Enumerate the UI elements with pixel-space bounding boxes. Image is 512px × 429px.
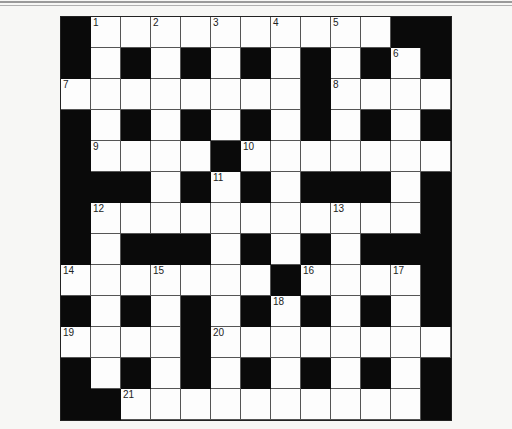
answer-square[interactable] <box>181 141 211 172</box>
answer-square[interactable] <box>91 296 121 327</box>
answer-square[interactable]: 19 <box>61 327 91 358</box>
answer-square[interactable] <box>391 327 421 358</box>
answer-square[interactable] <box>151 296 181 327</box>
answer-square[interactable] <box>181 79 211 110</box>
answer-square[interactable] <box>91 79 121 110</box>
answer-square[interactable] <box>271 172 301 203</box>
answer-square[interactable] <box>271 141 301 172</box>
answer-square[interactable] <box>361 265 391 296</box>
answer-square[interactable] <box>241 389 271 420</box>
answer-square[interactable] <box>181 203 211 234</box>
answer-square[interactable] <box>331 327 361 358</box>
answer-square[interactable] <box>211 79 241 110</box>
answer-square[interactable] <box>241 203 271 234</box>
answer-square[interactable] <box>271 203 301 234</box>
answer-square[interactable] <box>211 234 241 265</box>
answer-square[interactable] <box>241 17 271 48</box>
answer-square[interactable] <box>271 358 301 389</box>
answer-square[interactable] <box>361 141 391 172</box>
answer-square[interactable]: 16 <box>301 265 331 296</box>
answer-square[interactable]: 15 <box>151 265 181 296</box>
answer-square[interactable] <box>391 110 421 141</box>
answer-square[interactable] <box>391 296 421 327</box>
answer-square[interactable] <box>241 327 271 358</box>
answer-square[interactable]: 11 <box>211 172 241 203</box>
answer-square[interactable]: 5 <box>331 17 361 48</box>
answer-square[interactable] <box>391 141 421 172</box>
answer-square[interactable] <box>331 358 361 389</box>
answer-square[interactable] <box>361 327 391 358</box>
answer-square[interactable] <box>301 141 331 172</box>
answer-square[interactable]: 21 <box>121 389 151 420</box>
answer-square[interactable] <box>361 389 391 420</box>
answer-square[interactable]: 13 <box>331 203 361 234</box>
answer-square[interactable]: 20 <box>211 327 241 358</box>
answer-square[interactable] <box>211 389 241 420</box>
answer-square[interactable] <box>331 265 361 296</box>
answer-square[interactable] <box>211 110 241 141</box>
answer-square[interactable] <box>241 265 271 296</box>
answer-square[interactable] <box>91 327 121 358</box>
answer-square[interactable]: 1 <box>91 17 121 48</box>
answer-square[interactable] <box>361 17 391 48</box>
answer-square[interactable] <box>421 79 451 110</box>
answer-square[interactable] <box>391 172 421 203</box>
answer-square[interactable] <box>331 110 361 141</box>
answer-square[interactable] <box>121 203 151 234</box>
answer-square[interactable] <box>121 17 151 48</box>
answer-square[interactable]: 8 <box>331 79 361 110</box>
answer-square[interactable] <box>151 141 181 172</box>
answer-square[interactable]: 10 <box>241 141 271 172</box>
answer-square[interactable]: 14 <box>61 265 91 296</box>
answer-square[interactable] <box>211 358 241 389</box>
answer-square[interactable] <box>301 389 331 420</box>
answer-square[interactable]: 4 <box>271 17 301 48</box>
answer-square[interactable] <box>301 327 331 358</box>
answer-square[interactable] <box>181 17 211 48</box>
answer-square[interactable] <box>151 110 181 141</box>
answer-square[interactable] <box>271 389 301 420</box>
answer-square[interactable] <box>271 327 301 358</box>
answer-square[interactable] <box>151 48 181 79</box>
answer-square[interactable] <box>151 203 181 234</box>
answer-square[interactable] <box>91 234 121 265</box>
answer-square[interactable] <box>91 48 121 79</box>
answer-square[interactable] <box>331 141 361 172</box>
answer-square[interactable] <box>271 234 301 265</box>
answer-square[interactable]: 3 <box>211 17 241 48</box>
answer-square[interactable] <box>91 110 121 141</box>
answer-square[interactable] <box>181 389 211 420</box>
answer-square[interactable] <box>271 48 301 79</box>
answer-square[interactable]: 7 <box>61 79 91 110</box>
answer-square[interactable] <box>241 79 271 110</box>
answer-square[interactable] <box>211 296 241 327</box>
answer-square[interactable] <box>271 110 301 141</box>
answer-square[interactable]: 6 <box>391 48 421 79</box>
answer-square[interactable]: 2 <box>151 17 181 48</box>
answer-square[interactable] <box>301 203 331 234</box>
answer-square[interactable] <box>121 79 151 110</box>
answer-square[interactable] <box>331 234 361 265</box>
answer-square[interactable] <box>361 203 391 234</box>
answer-square[interactable] <box>91 358 121 389</box>
answer-square[interactable]: 17 <box>391 265 421 296</box>
answer-square[interactable] <box>391 358 421 389</box>
answer-square[interactable] <box>391 79 421 110</box>
answer-square[interactable] <box>121 327 151 358</box>
answer-square[interactable] <box>391 203 421 234</box>
answer-square[interactable] <box>391 389 421 420</box>
answer-square[interactable] <box>151 389 181 420</box>
answer-square[interactable] <box>121 265 151 296</box>
answer-square[interactable] <box>211 203 241 234</box>
answer-square[interactable] <box>211 265 241 296</box>
answer-square[interactable] <box>151 79 181 110</box>
answer-square[interactable] <box>331 296 361 327</box>
answer-square[interactable] <box>331 389 361 420</box>
answer-square[interactable] <box>301 17 331 48</box>
answer-square[interactable] <box>151 172 181 203</box>
answer-square[interactable]: 12 <box>91 203 121 234</box>
answer-square[interactable] <box>421 141 451 172</box>
answer-square[interactable]: 18 <box>271 296 301 327</box>
answer-square[interactable] <box>331 48 361 79</box>
answer-square[interactable] <box>151 358 181 389</box>
